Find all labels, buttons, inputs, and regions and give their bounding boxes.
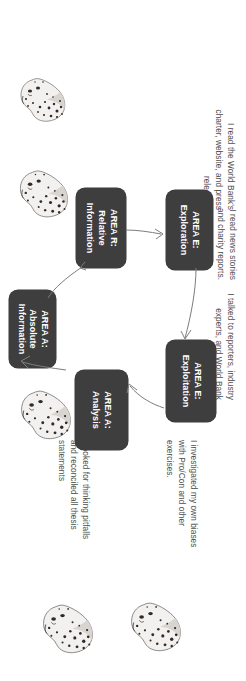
node-area-e-exploitation[interactable]: AREA E: Exploitation — [166, 340, 216, 422]
leopard-head-image-2 — [15, 166, 71, 222]
arrow-relative-to-exploration — [124, 218, 168, 248]
node-line-2: Exploitation — [179, 355, 191, 408]
flowchart-canvas: I read the World Bank's charter, website… — [0, 0, 246, 681]
node-line-2: Absolute — [27, 304, 39, 355]
caption-analysis: I looked for thinking pitfalls and recon… — [56, 440, 91, 592]
leopard-head-image-3 — [16, 386, 74, 444]
arrow-exploration-to-exploitation — [176, 266, 206, 346]
node-line-1: AREA E: — [190, 205, 202, 256]
rotated-poster-wrapper: I read the World Bank's charter, website… — [0, 0, 246, 681]
node-line-1: AREA A: — [38, 304, 50, 355]
node-line-1: AREA E: — [191, 355, 203, 408]
node-line-1: AREA R: — [107, 203, 119, 254]
node-line-2: Analysis — [90, 391, 102, 429]
leopard-head-image-1 — [16, 74, 68, 126]
node-line-3: Information — [83, 203, 95, 254]
arrow-analysis-to-absolute — [16, 352, 68, 376]
leopard-head-image-5 — [38, 600, 96, 658]
node-area-a-analysis[interactable]: AREA A: Analysis — [75, 370, 128, 450]
leopard-head-image-4 — [126, 598, 184, 656]
node-line-2: Relative — [95, 203, 107, 254]
node-area-r-relative-information[interactable]: AREA R: Relative Information — [76, 188, 126, 268]
node-line-3: Information — [15, 304, 27, 355]
arrow-absolute-to-relative — [44, 258, 88, 302]
node-line-2: Exploration — [178, 205, 190, 256]
node-line-1: AREA A: — [102, 391, 114, 429]
caption-exploitation: I investigated my own biases with Pro/Co… — [164, 440, 199, 592]
node-area-e-exploration[interactable]: AREA E: Exploration — [166, 190, 213, 270]
arrow-exploitation-to-analysis — [124, 372, 168, 418]
